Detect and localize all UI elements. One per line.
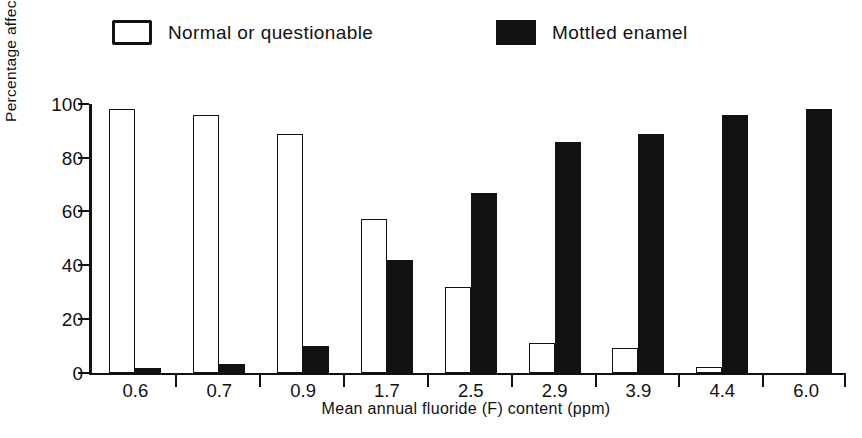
legend-label-mottled-enamel: Mottled enamel — [552, 22, 688, 44]
x-axis-tick-label: 0.7 — [206, 382, 232, 401]
x-axis-tick-label: 0.9 — [290, 382, 316, 401]
bar-normal — [109, 109, 135, 372]
x-axis-tick-mark — [511, 375, 513, 387]
y-axis-tick-label: 40 — [62, 256, 83, 275]
chart-legend: Normal or questionable Mottled enamel — [0, 18, 862, 60]
x-axis-tick-mark — [762, 375, 764, 387]
bar-normal — [696, 367, 722, 372]
legend-item-mottled-enamel: Mottled enamel — [496, 20, 688, 45]
bar-group — [529, 104, 581, 373]
chart-figure: Normal or questionable Mottled enamel Pe… — [0, 0, 862, 438]
legend-swatch-open-icon — [112, 20, 152, 45]
bar-normal — [361, 219, 387, 372]
y-axis-tick-label: 0 — [72, 363, 83, 382]
legend-item-normal-or-questionable: Normal or questionable — [112, 20, 373, 45]
x-axis-tick-mark — [844, 375, 846, 387]
x-axis-tick-mark — [595, 375, 597, 387]
x-axis-tick-mark — [343, 375, 345, 387]
bar-group — [445, 104, 497, 373]
x-axis-tick-label: 2.5 — [458, 382, 484, 401]
bar-group — [780, 104, 832, 373]
bar-mottled — [806, 109, 832, 372]
bar-normal — [529, 343, 555, 373]
bar-group — [612, 104, 664, 373]
bar-groups — [92, 104, 847, 373]
bar-normal — [277, 134, 303, 373]
x-axis-tick-mark — [175, 375, 177, 387]
bar-group — [696, 104, 748, 373]
x-axis-tick-label: 6.0 — [793, 382, 819, 401]
y-axis-title: Percentage affected — [2, 0, 20, 122]
bar-mottled — [555, 142, 581, 373]
x-axis-line — [89, 373, 846, 376]
x-axis-tick-mark — [678, 375, 680, 387]
x-axis-tick-mark — [427, 375, 429, 387]
bar-normal — [612, 348, 638, 372]
bar-group — [109, 104, 161, 373]
bar-mottled — [638, 134, 664, 373]
bar-normal — [445, 287, 471, 373]
x-axis-tick-label: 3.9 — [626, 382, 652, 401]
bar-normal — [193, 115, 219, 373]
bar-mottled — [219, 364, 245, 372]
x-axis-tick-label: 1.7 — [374, 382, 400, 401]
bar-mottled — [303, 346, 329, 373]
y-axis-tick-label: 100 — [51, 95, 83, 114]
legend-label-normal-or-questionable: Normal or questionable — [168, 22, 373, 44]
x-axis-tick-label: 2.9 — [542, 382, 568, 401]
y-axis-tick-label: 20 — [62, 309, 83, 328]
y-axis-tick-label: 80 — [62, 148, 83, 167]
x-axis-tick-label: 4.4 — [709, 382, 735, 401]
x-axis-tick-label: 0.6 — [123, 382, 149, 401]
x-axis-title: Mean annual fluoride (F) content (ppm) — [0, 400, 862, 418]
legend-swatch-filled-icon — [496, 20, 536, 45]
bar-mottled — [135, 368, 161, 372]
bar-group — [361, 104, 413, 373]
plot-area: 020406080100 0.60.70.91.72.52.93.94.46.0 — [89, 104, 846, 375]
bar-group — [193, 104, 245, 373]
bar-group — [277, 104, 329, 373]
x-axis-tick-mark — [259, 375, 261, 387]
bar-mottled — [387, 260, 413, 373]
bar-mottled — [471, 193, 497, 373]
y-axis-tick-label: 60 — [62, 202, 83, 221]
bar-mottled — [722, 115, 748, 373]
